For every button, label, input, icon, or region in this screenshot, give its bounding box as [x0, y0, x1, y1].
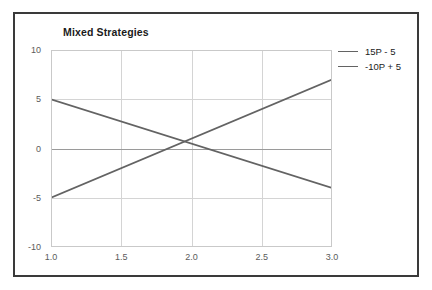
x-axis-tick-labels: 1.01.52.02.53.0 [51, 252, 332, 266]
y-axis-tick-labels: 1050-5-10 [9, 50, 45, 247]
x-tick-label: 1.0 [45, 252, 58, 262]
gridlines [51, 50, 332, 247]
legend-item-label: 15P - 5 [365, 46, 395, 57]
x-tick-label: 3.0 [326, 252, 339, 262]
y-tick-label: 0 [36, 144, 41, 154]
y-tick-label: 5 [36, 94, 41, 104]
chart-title: Mixed Strategies [63, 26, 149, 38]
legend-line-swatch-icon [338, 51, 358, 52]
x-tick-label: 2.5 [255, 252, 268, 262]
y-tick-label: -10 [28, 242, 41, 252]
legend-item[interactable]: -10P + 5 [338, 59, 418, 73]
y-tick-label: -5 [33, 193, 41, 203]
chart-legend: 15P - 5 -10P + 5 [338, 44, 418, 74]
y-tick-label: 10 [31, 45, 41, 55]
plot-border [52, 51, 332, 247]
legend-item-label: -10P + 5 [365, 61, 401, 72]
plot-area [51, 50, 332, 247]
legend-line-swatch-icon [338, 66, 358, 67]
data-series-lines [51, 80, 332, 198]
legend-item[interactable]: 15P - 5 [338, 44, 418, 58]
x-tick-label: 2.0 [185, 252, 198, 262]
series-line-1 [51, 80, 332, 198]
series-line-2 [51, 99, 332, 188]
plot-svg [51, 50, 332, 247]
x-tick-label: 1.5 [115, 252, 128, 262]
chart-figure-frame: Mixed Strategies 1050-5-10 1.01.52.02.53… [13, 12, 419, 277]
